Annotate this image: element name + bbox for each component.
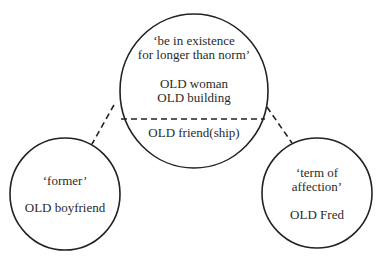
polysemy-diagram: ‘be in existence for longer than norm’ O… — [0, 0, 379, 264]
right-node-example: OLD Fred — [290, 208, 344, 222]
edge-center-right — [267, 107, 292, 143]
left-node-circle — [10, 138, 120, 250]
center-node-below-divider: OLD friend(ship) — [148, 126, 239, 140]
right-node-sense-line-1: ‘term of — [296, 166, 338, 180]
right-node-sense-line-2: affection’ — [292, 180, 342, 194]
edge-center-left — [92, 105, 114, 144]
left-node-sense: ‘former’ — [43, 174, 88, 188]
center-node-sense-line-1: ‘be in existence — [153, 34, 235, 48]
center-node-sense-line-2: for longer than norm’ — [138, 48, 250, 62]
center-node-example-1: OLD woman — [160, 77, 228, 91]
left-node-example: OLD boyfriend — [25, 201, 106, 215]
center-node-example-2: OLD building — [157, 91, 230, 105]
